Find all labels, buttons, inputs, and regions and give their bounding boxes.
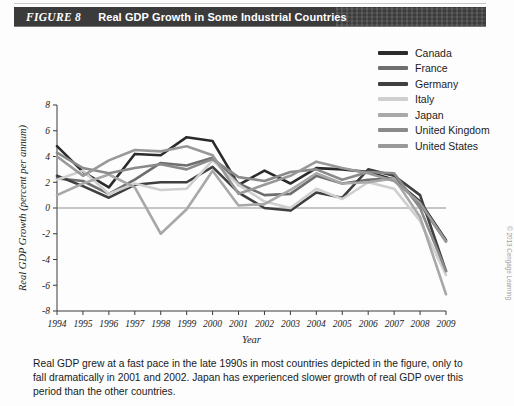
legend-color-swatch [378, 128, 408, 132]
figure-container: FIGURE 8 Real GDP Growth in Some Industr… [0, 0, 514, 406]
y-tick-label: -8 [42, 306, 50, 316]
legend-item: Germany [378, 77, 490, 90]
figure-caption: Real GDP grew at a fast pace in the late… [33, 357, 473, 400]
top-rule [14, 3, 486, 4]
y-tick-label: 4 [45, 152, 50, 162]
series-line [57, 167, 446, 271]
chart-legend: CanadaFranceGermanyItalyJapanUnited King… [378, 46, 490, 153]
x-axis-title: Year [242, 334, 262, 345]
x-tick-label: 1994 [48, 319, 67, 329]
y-tick-label: 2 [45, 178, 50, 188]
x-tick-label: 2007 [385, 319, 405, 329]
legend-item-label: United Kingdom [415, 124, 490, 136]
y-axis-title: Real GDP Growth (percent per annum) [17, 124, 29, 292]
x-tick-label: 1999 [177, 319, 196, 329]
legend-item-label: Japan [415, 109, 444, 121]
figure-number: FIGURE 8 [26, 11, 81, 23]
x-tick-label: 2004 [307, 319, 326, 329]
x-tick-label: 2001 [229, 319, 248, 329]
x-tick-label: 1996 [99, 319, 118, 329]
x-tick-label: 2002 [255, 319, 274, 329]
x-tick-label: 2008 [411, 319, 430, 329]
legend-item: United States [378, 140, 490, 153]
legend-item-label: United States [415, 140, 478, 152]
legend-color-swatch [378, 66, 408, 70]
legend-item-label: Canada [415, 47, 452, 59]
y-tick-label: -4 [42, 255, 50, 265]
figure-title: Real GDP Growth in Some Industrial Count… [98, 11, 347, 23]
legend-item-label: Germany [415, 78, 458, 90]
x-tick-label: 2000 [203, 319, 222, 329]
legend-item: United Kingdom [378, 124, 490, 137]
legend-color-swatch [378, 144, 408, 148]
y-tick-label: 0 [45, 203, 50, 213]
legend-item: Italy [378, 93, 490, 106]
legend-item-label: France [415, 62, 448, 74]
legend-item: Japan [378, 108, 490, 121]
y-tick-label: 8 [45, 100, 50, 110]
legend-item: Canada [378, 46, 490, 59]
y-tick-label: 6 [45, 126, 50, 136]
x-tick-label: 2009 [437, 319, 456, 329]
legend-color-swatch [378, 113, 408, 117]
series-line [57, 153, 446, 271]
x-tick-label: 2003 [281, 319, 300, 329]
copyright-notice: © 2013 Cengage Learning [506, 226, 513, 300]
legend-color-swatch [378, 82, 408, 86]
x-tick-label: 1995 [73, 319, 92, 329]
legend-item-label: Italy [415, 93, 434, 105]
x-tick-label: 1998 [151, 319, 170, 329]
y-tick-label: -6 [42, 281, 50, 291]
chart-series-lines [57, 137, 446, 294]
x-tick-label: 2006 [359, 319, 378, 329]
legend-color-swatch [378, 51, 408, 55]
x-tick-label: 1997 [125, 319, 145, 329]
figure-header-bar: FIGURE 8 Real GDP Growth in Some Industr… [14, 7, 486, 26]
y-tick-label: -2 [42, 229, 50, 239]
legend-color-swatch [378, 97, 408, 101]
x-tick-label: 2005 [333, 319, 352, 329]
legend-item: France [378, 62, 490, 75]
